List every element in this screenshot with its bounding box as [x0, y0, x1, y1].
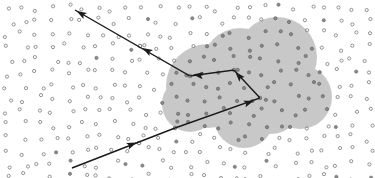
particle-dot — [229, 121, 232, 124]
particle-dot — [86, 95, 89, 98]
particle-dot — [87, 68, 90, 71]
particle-dot — [170, 166, 173, 169]
particle-dot — [138, 85, 141, 88]
particle-dot — [145, 113, 148, 116]
particle-dot — [310, 47, 313, 50]
particle-dot — [295, 68, 298, 71]
particle-dot — [265, 126, 268, 129]
particle-dot — [110, 148, 113, 151]
particle-dot — [108, 10, 111, 13]
particle-dot — [237, 138, 240, 141]
particle-dot — [159, 5, 162, 8]
particle-dot — [131, 59, 134, 62]
particle-dot — [367, 71, 370, 74]
particle-dot — [297, 61, 300, 64]
particle-dot — [168, 36, 171, 39]
particle-dot — [368, 163, 371, 166]
particle-dot — [20, 153, 23, 156]
particle-dot — [278, 136, 281, 139]
particle-dot — [127, 16, 130, 19]
particle-dot — [170, 82, 173, 85]
particle-dot — [33, 18, 36, 21]
particle-dot — [123, 84, 126, 87]
particle-dot — [52, 127, 55, 130]
arrowhead-icon — [75, 8, 87, 19]
particle-dot — [334, 113, 337, 116]
particle-dot — [202, 55, 205, 58]
particle-dot — [33, 33, 36, 36]
particle-dot — [95, 146, 98, 149]
particle-dot — [113, 119, 116, 122]
particle-dot — [51, 97, 54, 100]
particle-dot — [213, 43, 216, 46]
particle-dot — [338, 85, 341, 88]
particle-dot — [273, 81, 276, 84]
particle-dot — [221, 22, 224, 25]
particle-dot — [4, 149, 7, 152]
particle-dot — [310, 161, 313, 164]
particle-dot — [80, 120, 83, 123]
particle-dot — [232, 54, 235, 57]
particle-dot — [154, 21, 157, 24]
particle-dot — [307, 74, 310, 77]
particle-dot — [371, 149, 374, 152]
particle-dot — [221, 34, 224, 37]
particle-dot — [68, 126, 71, 129]
particle-dot — [33, 56, 36, 59]
particle-dot — [288, 139, 291, 142]
particle-dot — [82, 84, 85, 87]
particle-dot — [288, 125, 291, 128]
particle-dot — [147, 33, 150, 36]
particle-dot — [370, 176, 373, 178]
particle-dot — [39, 94, 42, 97]
particle-dot — [33, 9, 36, 12]
particle-dot — [68, 172, 71, 175]
particle-dot — [124, 163, 127, 166]
particle-dot — [326, 62, 329, 65]
particle-dot — [142, 134, 145, 137]
particle-dot — [236, 68, 239, 71]
particle-dot — [303, 108, 306, 111]
particle-dot — [248, 123, 251, 126]
particle-dot — [86, 34, 89, 37]
particle-dot — [355, 31, 358, 34]
particle-dot — [273, 100, 276, 103]
particle-dot — [94, 166, 97, 169]
particle-dot — [365, 9, 368, 12]
particle-dot — [10, 99, 13, 102]
particle-dot — [132, 122, 135, 125]
particle-dot — [260, 107, 263, 110]
particle-dot — [137, 96, 140, 99]
particle-dot — [4, 121, 7, 124]
particle-dot — [161, 73, 164, 76]
scattering-diagram — [0, 0, 375, 178]
particle-dot — [35, 163, 38, 166]
particle-dot — [130, 48, 133, 51]
particle-dot — [333, 164, 336, 167]
particle-dot — [98, 133, 101, 136]
particle-dot — [365, 140, 368, 143]
particle-dot — [190, 173, 193, 176]
particle-dot — [274, 17, 277, 20]
particle-dot — [159, 111, 162, 114]
particle-dot — [322, 173, 325, 176]
particle-dot — [205, 45, 208, 48]
particle-dot — [265, 159, 268, 162]
particle-dot — [5, 75, 8, 78]
particle-dot — [368, 32, 371, 35]
particle-dot — [124, 6, 127, 9]
particle-dot — [3, 35, 6, 38]
particle-dot — [273, 146, 276, 149]
particle-dot — [220, 176, 223, 178]
particle-dot — [264, 30, 267, 33]
particle-dot — [348, 57, 351, 60]
particle-dot — [67, 137, 70, 140]
particle-dot — [334, 34, 337, 37]
particle-dot — [72, 110, 75, 113]
particle-dot — [304, 54, 307, 57]
diagram-canvas — [0, 0, 375, 178]
particle-dot — [369, 18, 372, 21]
particle-dot — [52, 5, 55, 8]
particle-dot — [312, 5, 315, 8]
particle-dot — [310, 149, 313, 152]
